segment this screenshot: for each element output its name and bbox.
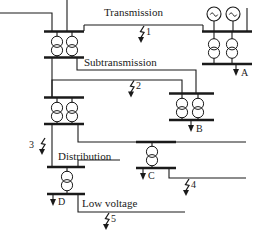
transformer-distribution-c (146, 142, 157, 168)
transformer-bank-gen-step-up (208, 32, 237, 64)
label-fault-1: 1 (146, 27, 151, 37)
line-distribution-right (78, 124, 137, 142)
label-load-a: A (241, 68, 248, 78)
load-arrow-a (233, 64, 239, 76)
label-fault-5: 5 (111, 214, 116, 224)
fault-marker-5 (103, 213, 109, 230)
label-low-voltage: Low voltage (82, 198, 137, 209)
transformer-bank-main-hv (51, 32, 77, 57)
fault-marker-1 (138, 26, 144, 43)
transformer-distribution-d (61, 167, 72, 194)
label-load-b: B (196, 124, 203, 134)
load-arrow-c (140, 168, 146, 180)
incoming-transmission-lines (0, 0, 67, 31)
load-arrow-d (50, 194, 56, 206)
line-c-feeder-out (169, 168, 246, 178)
label-load-c: C (148, 171, 155, 181)
load-arrow-b (188, 120, 194, 132)
label-fault-2: 2 (136, 81, 141, 91)
label-load-d: D (58, 197, 65, 207)
label-fault-4: 4 (191, 180, 196, 190)
transformer-bank-load-b (176, 94, 203, 120)
label-fault-3: 3 (29, 140, 34, 150)
generator-2 (226, 7, 240, 31)
fault-marker-2 (128, 81, 134, 98)
label-transmission: Transmission (104, 7, 163, 18)
label-subtransmission: Subtransmission (84, 57, 157, 68)
line-subtransmission-tie (52, 80, 182, 97)
label-distribution: Distribution (58, 151, 111, 162)
fault-marker-4 (183, 179, 189, 196)
fault-marker-3 (39, 138, 45, 155)
transformer-bank-subtransmission (51, 98, 77, 124)
power-system-diagram-canvas: Transmission Subtransmission Distributio… (0, 0, 263, 241)
generator-1 (207, 7, 221, 31)
